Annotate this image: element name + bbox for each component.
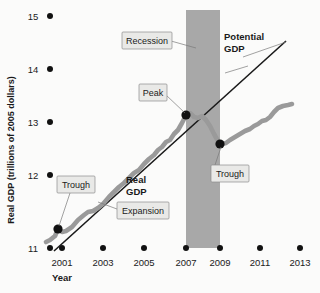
peak-marker-2007 bbox=[181, 110, 190, 119]
y-tick-dot bbox=[47, 66, 53, 72]
y-tick-label-14: 14 bbox=[28, 64, 39, 75]
callout-trough-right: Trough bbox=[211, 165, 249, 182]
y-axis-ticks: 15 14 13 12 11 bbox=[28, 11, 53, 254]
series-label-potential-gdp: Potential GDP bbox=[224, 31, 264, 54]
potential-gdp-leader-line bbox=[243, 42, 286, 57]
callout-trough-left: Trough bbox=[57, 176, 95, 193]
callout-peak-label: Peak bbox=[143, 88, 164, 98]
x-tick-label-2005: 2005 bbox=[133, 257, 154, 268]
x-tick-label-2001: 2001 bbox=[51, 257, 72, 268]
y-tick-dot bbox=[47, 245, 53, 251]
recession-shaded-band bbox=[186, 10, 220, 248]
trough-marker-2009 bbox=[215, 139, 224, 148]
x-tick-label-2003: 2003 bbox=[92, 257, 113, 268]
y-tick-label-12: 12 bbox=[28, 170, 39, 181]
y-tick-dot bbox=[47, 13, 53, 19]
callout-trough-left-label: Trough bbox=[62, 180, 90, 190]
x-tick-label-2013: 2013 bbox=[289, 257, 310, 268]
series-label-real-gdp: Real GDP bbox=[126, 174, 147, 197]
x-tick-dot bbox=[100, 245, 106, 251]
x-tick-label-2007: 2007 bbox=[175, 257, 196, 268]
x-tick-label-2009: 2009 bbox=[209, 257, 230, 268]
x-tick-dot bbox=[297, 245, 303, 251]
y-axis-title: Real GDP (trillions of 2005 dollars) bbox=[6, 76, 16, 223]
x-tick-dot bbox=[217, 245, 223, 251]
real-gdp-label-line2: GDP bbox=[126, 186, 147, 197]
real-gdp-label-line1: Real bbox=[126, 174, 146, 185]
x-tick-dot bbox=[257, 245, 263, 251]
potential-gdp-leader-line-2 bbox=[225, 66, 248, 73]
callout-trough-right-label: Trough bbox=[216, 169, 244, 179]
potential-gdp-label-line1: Potential bbox=[224, 31, 264, 42]
y-tick-dot bbox=[47, 119, 53, 125]
y-tick-dot bbox=[47, 172, 53, 178]
trough-marker-2001 bbox=[53, 224, 62, 233]
chart-svg: 15 14 13 12 11 2001 2003 2005 2007 2009 … bbox=[0, 0, 320, 293]
x-tick-label-2011: 2011 bbox=[250, 257, 270, 268]
real-gdp-line bbox=[46, 104, 292, 242]
x-axis-ticks: 2001 2003 2005 2007 2009 2011 2013 bbox=[51, 245, 310, 268]
callout-recession: Recession bbox=[122, 32, 172, 49]
callout-expansion-label: Expansion bbox=[122, 206, 164, 216]
gdp-business-cycle-chart: 15 14 13 12 11 2001 2003 2005 2007 2009 … bbox=[0, 0, 320, 293]
x-axis-title: Year bbox=[52, 272, 72, 283]
callout-expansion: Expansion bbox=[117, 202, 169, 219]
y-tick-label-13: 13 bbox=[28, 117, 39, 128]
x-tick-dot bbox=[141, 245, 147, 251]
callout-recession-label: Recession bbox=[126, 36, 168, 46]
callout-peak: Peak bbox=[139, 84, 167, 101]
x-tick-dot bbox=[183, 245, 189, 251]
peak-leader-line bbox=[166, 95, 185, 113]
y-tick-label-15: 15 bbox=[28, 11, 39, 22]
y-tick-label-11: 11 bbox=[28, 243, 38, 254]
potential-gdp-label-line2: GDP bbox=[224, 43, 245, 54]
potential-gdp-line bbox=[54, 41, 286, 251]
